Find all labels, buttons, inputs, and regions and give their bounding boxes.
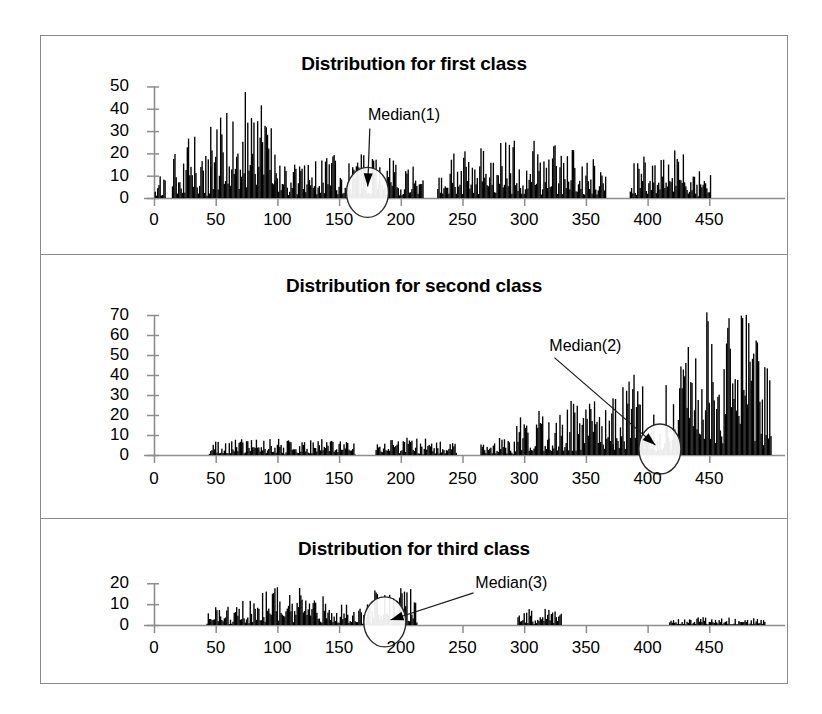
x-tick-label: 450 [669,211,749,228]
y-tick-label: 40 [110,366,129,383]
x-tick-label: 450 [669,639,749,656]
chart-panel-first-class: Distribution for first class 01020304050… [41,36,787,254]
y-tick-label: 20 [110,574,129,591]
median-leader-line [391,593,474,620]
y-tick-label: 50 [110,346,129,363]
x-tick-label: 450 [669,470,749,487]
y-tick-label: 70 [110,306,129,323]
figure-root: Distribution for first class 01020304050… [0,0,822,714]
y-tick-label: 0 [120,189,129,206]
median-annotation-label-1: Median(1) [368,107,440,123]
y-tick-label: 0 [120,616,129,633]
y-tick-label: 50 [110,77,129,94]
bar-series [206,587,765,625]
y-tick-label: 20 [110,144,129,161]
y-tick-label: 10 [110,426,129,443]
y-tick-label: 60 [110,326,129,343]
y-tick-label: 30 [110,386,129,403]
y-tick-label: 20 [110,406,129,423]
y-tick-label: 10 [110,595,129,612]
bar-series [209,312,772,455]
chart-panel-third-class: Distribution for third class 01020050100… [41,519,787,683]
y-tick-label: 40 [110,100,129,117]
median-annotation-label-3: Median(3) [475,575,547,591]
median-marker-ellipse [639,424,681,474]
plot-area-third-class [41,519,787,683]
median-annotation-label-2: Median(2) [549,338,621,354]
median-leader-line [554,358,655,446]
y-tick-label: 30 [110,122,129,139]
y-tick-label: 0 [120,446,129,463]
chart-panel-second-class: Distribution for second class 0102030405… [41,255,787,518]
y-tick-label: 10 [110,167,129,184]
